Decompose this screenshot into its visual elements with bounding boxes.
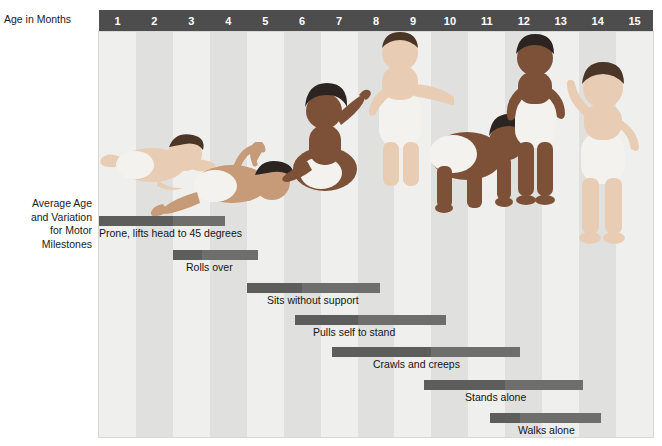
month-tick-7: 7 [321,10,358,32]
axis-label-age-text: Age in Months [4,13,71,25]
month-tick-3: 3 [173,10,210,32]
milestone-bar-average-segment-crawls-and-creeps [332,347,432,357]
milestone-label-prone-lifts-head: Prone, lifts head to 45 degrees [99,227,242,239]
column-stripe-5 [247,32,284,437]
milestone-label-walks-alone: Walks alone [518,424,575,436]
axis-label-milestones-line-1: Average Age [0,197,92,211]
month-tick-6: 6 [284,10,321,32]
column-stripe-8 [358,32,395,437]
axis-label-milestones-line-2: and Variation [0,211,92,225]
month-tick-13: 13 [542,10,579,32]
milestone-label-rolls-over: Rolls over [186,261,233,273]
month-header-bar: 123456789101112131415 [99,10,653,32]
milestone-chart: 123456789101112131415 [99,10,653,437]
column-stripe-12 [505,32,542,437]
month-tick-14: 14 [579,10,616,32]
column-stripe-15 [616,32,653,437]
axis-label-milestones-line-3: for Motor [0,224,92,238]
month-tick-5: 5 [247,10,284,32]
milestone-bar-sits-without-support [247,283,380,293]
column-stripe-7 [321,32,358,437]
month-tick-4: 4 [210,10,247,32]
milestone-bar-average-segment-rolls-over [173,250,203,260]
axis-label-milestones-line-4: Milestones [0,238,92,252]
milestone-bar-average-segment-stands-alone [424,380,505,390]
column-stripe-13 [542,32,579,437]
month-tick-11: 11 [468,10,505,32]
milestone-bar-average-segment-prone-lifts-head [99,216,173,226]
month-tick-12: 12 [505,10,542,32]
milestone-bar-pulls-self-to-stand [295,315,446,325]
milestone-label-sits-without-support: Sits without support [267,294,359,306]
month-tick-15: 15 [616,10,653,32]
milestone-label-crawls-and-creeps: Crawls and creeps [373,358,460,370]
milestone-bar-prone-lifts-head [99,216,225,226]
column-stripe-14 [579,32,616,437]
milestone-label-stands-alone: Stands alone [465,391,526,403]
milestone-bar-walks-alone [490,413,601,423]
milestone-bar-stands-alone [424,380,583,390]
column-stripe-11 [468,32,505,437]
milestone-bar-average-segment-pulls-self-to-stand [295,315,358,325]
month-tick-9: 9 [395,10,432,32]
axis-label-age: Age in Months [4,13,92,26]
month-tick-1: 1 [99,10,136,32]
axis-label-milestones: Average Age and Variation for Motor Mile… [0,197,92,251]
milestone-bar-rolls-over [173,250,258,260]
milestone-bar-average-segment-sits-without-support [247,283,302,293]
column-stripe-10 [431,32,468,437]
column-stripe-6 [284,32,321,437]
month-tick-8: 8 [358,10,395,32]
month-tick-2: 2 [136,10,173,32]
milestone-bar-average-segment-walks-alone [490,413,520,423]
milestone-label-pulls-self-to-stand: Pulls self to stand [313,326,395,338]
month-tick-10: 10 [431,10,468,32]
column-stripe-9 [394,32,431,437]
milestone-bar-crawls-and-creeps [332,347,520,357]
